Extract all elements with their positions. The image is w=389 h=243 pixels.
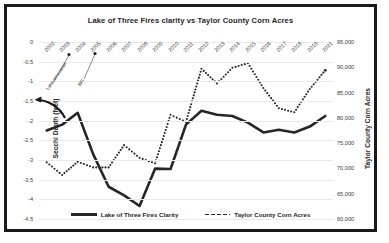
left-axis-tick-label: -1 <box>9 78 33 84</box>
left-axis-tick-label: -3.5 <box>9 177 33 183</box>
plot-area <box>39 42 333 219</box>
series-line-clarity <box>47 111 326 206</box>
gridline <box>39 121 333 122</box>
gridline <box>39 101 333 102</box>
legend-item-corn-acres[interactable]: Taylor County Corn Acres <box>204 211 310 218</box>
left-axis-tick-label: -1.5 <box>9 98 33 104</box>
legend-item-clarity[interactable]: Lake of Three Fires Clarity <box>71 211 179 218</box>
left-axis-tick-label: -2.5 <box>9 137 33 143</box>
series-layer <box>39 42 333 219</box>
left-axis-tick-label: -3 <box>9 157 33 163</box>
legend-label-corn-acres: Taylor County Corn Acres <box>234 211 310 218</box>
gridline <box>39 140 333 141</box>
left-axis-tick-label: -4 <box>9 196 33 202</box>
legend-label-clarity: Lake of Three Fires Clarity <box>101 211 179 218</box>
right-axis-tick-label: 95,000 <box>337 39 371 45</box>
chart-legend: Lake of Three Fires Clarity Taylor Count… <box>7 211 374 218</box>
gridline <box>39 160 333 161</box>
right-axis-tick-label: 65,000 <box>337 191 371 197</box>
left-axis-tick-label: 0 <box>9 39 33 45</box>
gridline <box>39 62 333 63</box>
chart-canvas: Lake of Three Fires clarity vs Taylor Co… <box>7 7 374 229</box>
left-axis-tick-label: -0.5 <box>9 59 33 65</box>
gridline <box>39 180 333 181</box>
left-axis-tick-label: -2 <box>9 118 33 124</box>
left-axis-title: Secchi Depth (feet) <box>52 69 59 189</box>
right-axis-title: Taylor County Corn Acres <box>364 69 371 189</box>
dotted-line-swatch-icon <box>204 213 230 216</box>
chart-title: Lake of Three Fires clarity vs Taylor Co… <box>7 16 374 25</box>
gridline <box>39 219 333 220</box>
series-line-corn-acres <box>46 62 327 176</box>
chart-frame: Lake of Three Fires clarity vs Taylor Co… <box>4 4 377 232</box>
gridline <box>39 199 333 200</box>
solid-line-swatch-icon <box>71 213 97 216</box>
